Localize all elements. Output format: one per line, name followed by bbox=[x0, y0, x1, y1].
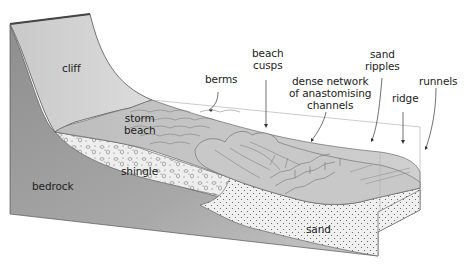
label-sand: sand bbox=[306, 223, 331, 235]
berms-arrow bbox=[209, 92, 218, 110]
label-sand-ripples-line1: sand bbox=[365, 48, 400, 60]
label-shingle: shingle bbox=[121, 165, 158, 177]
label-ridge: ridge bbox=[392, 92, 419, 104]
label-beach-cusps: beach cusps bbox=[252, 47, 284, 71]
label-berms: berms bbox=[205, 73, 237, 85]
label-channels-line1: dense network bbox=[289, 75, 371, 87]
label-channels-line2: of anastomising bbox=[289, 87, 371, 99]
label-storm-beach: storm beach bbox=[124, 112, 156, 136]
label-runnels: runnels bbox=[419, 75, 457, 87]
label-beach-cusps-line2: cusps bbox=[252, 59, 284, 71]
beach-block-diagram bbox=[0, 0, 473, 266]
label-channels-line3: channels bbox=[289, 99, 371, 111]
label-anastomising-channels: dense network of anastomising channels bbox=[289, 75, 371, 111]
runnels-arrow bbox=[426, 88, 436, 148]
label-storm-beach-line2: beach bbox=[124, 124, 156, 136]
sand-ripples-arrow bbox=[372, 78, 382, 140]
label-beach-cusps-line1: beach bbox=[252, 47, 284, 59]
label-sand-ripples-line2: ripples bbox=[365, 60, 400, 72]
label-sand-ripples: sand ripples bbox=[365, 48, 400, 72]
label-storm-beach-line1: storm bbox=[124, 112, 156, 124]
label-cliff: cliff bbox=[62, 62, 81, 74]
label-bedrock: bedrock bbox=[32, 180, 73, 192]
